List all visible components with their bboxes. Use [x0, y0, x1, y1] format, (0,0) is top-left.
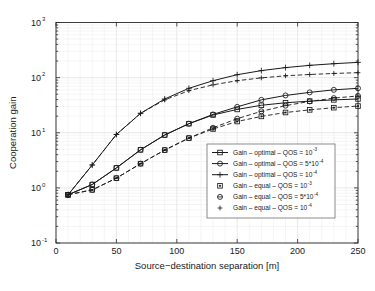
y-tick-base: 10: [31, 238, 41, 248]
x-tick-label: 0: [53, 246, 58, 256]
series-marker-3-dot: [260, 115, 262, 117]
series-marker-3-dot: [333, 107, 335, 109]
legend-marker-3-dot: [219, 185, 221, 187]
legend: Gain – optimal – QOS = 10-3Gain – optima…: [207, 144, 335, 218]
y-axis-title: Cooperation gain: [7, 97, 18, 169]
legend-exponent-5: -4: [308, 203, 313, 208]
y-tick-label: 101: [31, 127, 46, 139]
y-tick-exponent: 1: [42, 127, 46, 133]
y-tick-exponent: 0: [42, 182, 46, 188]
cooperation-gain-chart: 05010015020025010-1100101102103 Source−d…: [0, 0, 375, 291]
y-tick-base: 10: [31, 73, 41, 83]
y-tick-label: 103: [31, 16, 46, 28]
legend-label-0: Gain – optimal – QOS = 10: [233, 149, 313, 157]
series-marker-3-dot: [285, 112, 287, 114]
y-tick-exponent: 2: [42, 71, 46, 77]
legend-label-1: Gain – optimal – QOS = 5*10: [233, 160, 319, 168]
legend-label-2: Gain – optimal – QOS = 10: [233, 171, 313, 179]
y-tick-base: 10: [31, 183, 41, 193]
y-tick-label: 100: [31, 182, 46, 194]
y-tick-label: 102: [31, 71, 46, 83]
y-tick-base: 10: [31, 128, 41, 138]
x-tick-label: 150: [230, 246, 245, 256]
x-tick-label: 100: [169, 246, 184, 256]
legend-label-3: Gain – equal – QOS = 10: [233, 182, 308, 190]
x-tick-label: 50: [111, 246, 121, 256]
y-tick-exponent: -1: [42, 237, 48, 243]
legend-exponent-0: -3: [313, 147, 318, 152]
legend-exponent-4: -4: [314, 192, 319, 197]
legend-label-5: Gain – equal – QOS = 10: [233, 204, 308, 212]
x-axis-title: Source−destination separation [m]: [135, 260, 279, 271]
legend-label-4: Gain – equal – QOS = 5*10: [233, 193, 314, 201]
x-tick-label: 250: [350, 246, 365, 256]
legend-exponent-2: -4: [313, 170, 318, 175]
legend-exponent-1: -4: [319, 159, 324, 164]
figure-container: 05010015020025010-1100101102103 Source−d…: [0, 0, 375, 291]
y-tick-exponent: 3: [42, 16, 46, 22]
x-tick-label: 200: [290, 246, 305, 256]
series-marker-3-dot: [309, 109, 311, 111]
series-marker-3-dot: [357, 105, 359, 107]
y-tick-label: 10-1: [31, 237, 48, 249]
series-marker-3-dot: [212, 128, 214, 130]
y-tick-base: 10: [31, 18, 41, 28]
legend-exponent-3: -3: [308, 181, 313, 186]
